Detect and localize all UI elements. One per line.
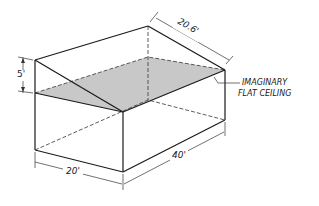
dim-label-20ft: 20' [66, 166, 80, 176]
flat-ceiling-plane [35, 57, 225, 112]
dim-label-5ft: 5' [17, 69, 25, 79]
callout-line2: FLAT CEILING [238, 89, 291, 98]
dim-slope-tick-left [150, 12, 158, 22]
dim-label-40ft: 40' [172, 150, 186, 160]
top-left-edge [35, 26, 148, 60]
callout-line1: IMAGINARY [242, 78, 287, 87]
dim-5ft-tick-bottom [18, 91, 33, 93]
dim-slope-tick-right [226, 56, 233, 64]
dim-5ft-arrow-top [21, 58, 25, 63]
floor-front-right [123, 120, 225, 172]
room-diagram [0, 0, 319, 206]
callout-leader [214, 77, 240, 83]
dim-5ft-tick-top [18, 57, 33, 60]
diagram-canvas: 5' 20.6' 20' 40' IMAGINARY FLAT CEILING [0, 0, 319, 206]
